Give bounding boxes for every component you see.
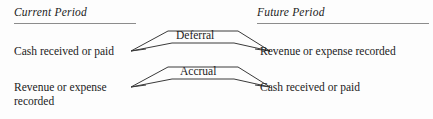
deferral-left-arrowhead bbox=[131, 49, 146, 51]
column-heading-rule-current bbox=[14, 23, 136, 24]
deferral-accrual-diagram: Current Period Future Period Deferral Ac… bbox=[0, 0, 433, 119]
column-heading-current-period: Current Period bbox=[14, 6, 87, 18]
accrual-left-arrowhead bbox=[131, 85, 146, 87]
deferral-caption: Deferral bbox=[176, 29, 214, 41]
node-label-deferral-right: Revenue or expense recorded bbox=[260, 44, 396, 58]
node-label-deferral-left: Cash received or paid bbox=[14, 44, 114, 58]
column-heading-future-period: Future Period bbox=[257, 6, 325, 18]
column-heading-rule-future bbox=[257, 23, 429, 24]
node-label-accrual-right: Cash received or paid bbox=[260, 80, 360, 94]
accrual-band-lower-edge bbox=[131, 79, 270, 87]
deferral-band-lower-edge bbox=[131, 43, 270, 51]
accrual-caption: Accrual bbox=[180, 65, 216, 77]
node-label-accrual-left: Revenue or expense recorded bbox=[14, 80, 107, 108]
